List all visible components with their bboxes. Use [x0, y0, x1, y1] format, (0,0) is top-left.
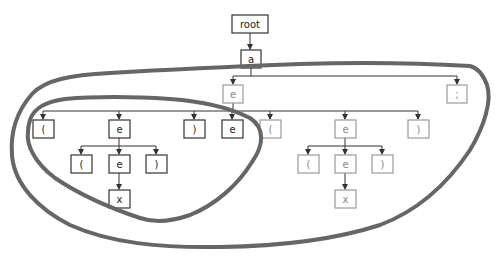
edge-a-bus: [233, 68, 457, 76]
svg-text:e: e: [342, 159, 348, 170]
svg-text:x: x: [343, 194, 349, 205]
svg-text:): ): [417, 124, 421, 135]
svg-text:x: x: [117, 194, 123, 205]
svg-text:a: a: [248, 54, 254, 65]
svg-text:): ): [381, 159, 385, 170]
node-lparen-2: (: [260, 120, 281, 138]
svg-text:(: (: [80, 159, 84, 170]
edge-e4-bus: [308, 138, 382, 146]
svg-text:(: (: [307, 159, 311, 170]
svg-text:e: e: [229, 124, 235, 135]
node-semicolon: ;: [447, 85, 467, 103]
node-e4: e: [335, 120, 356, 138]
svg-text:): ): [155, 159, 159, 170]
node-lparen-4: (: [298, 155, 319, 173]
svg-text:e: e: [342, 124, 348, 135]
node-x2: x: [335, 190, 356, 208]
node-lparen-3: (: [71, 155, 92, 173]
node-x1: x: [109, 190, 130, 208]
node-rparen-3: ): [146, 155, 167, 173]
svg-text:e: e: [116, 124, 122, 135]
node-e5: e: [109, 155, 130, 173]
svg-text:(: (: [269, 124, 273, 135]
node-rparen-2: ): [408, 120, 429, 138]
node-e1: e: [223, 85, 243, 103]
svg-text:): ): [193, 124, 197, 135]
svg-text:root: root: [240, 19, 260, 30]
svg-text:;: ;: [455, 89, 458, 100]
node-e6: e: [335, 155, 356, 173]
node-root: root: [232, 15, 268, 33]
edge-e2-bus: [81, 138, 156, 146]
node-e2: e: [109, 120, 130, 138]
svg-text:e: e: [230, 89, 236, 100]
node-rparen-1: ): [184, 120, 205, 138]
node-rparen-4: ): [372, 155, 393, 173]
node-lparen-1: (: [33, 120, 54, 138]
svg-text:e: e: [116, 159, 122, 170]
inner-region-outline: [28, 97, 261, 221]
parse-tree-diagram: root a e ; ( e ) e ( e ) (: [0, 0, 503, 273]
node-e3: e: [222, 120, 243, 138]
svg-text:(: (: [42, 124, 46, 135]
